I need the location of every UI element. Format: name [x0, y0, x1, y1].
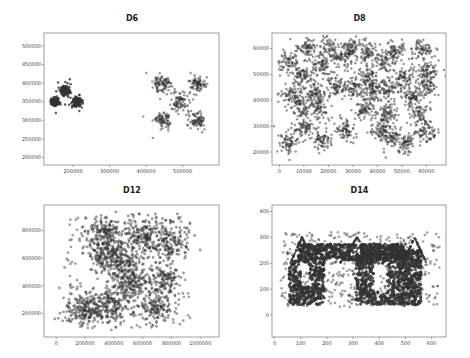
y-tick-label: 200000	[22, 154, 41, 160]
plot-d14: 01002003004005006000100200300400	[259, 205, 446, 346]
y-tick-label: 60000	[253, 45, 269, 51]
scatter-points	[260, 28, 447, 161]
y-tick-label: 20000	[253, 149, 269, 155]
scatter-points	[49, 72, 209, 139]
y-tick-label: 300000	[22, 117, 41, 123]
x-tick-label: 400	[375, 340, 385, 346]
x-tick-label: 40000	[369, 168, 385, 174]
x-tick-label: 300	[348, 340, 358, 346]
x-tick-label: 500	[401, 340, 411, 346]
y-tick-label: 400000	[22, 80, 41, 86]
y-tick-label: 30000	[253, 123, 269, 129]
x-tick-label: 500000	[173, 168, 192, 174]
y-tick-label: 50000	[253, 71, 269, 77]
y-tick-label: 400	[259, 208, 269, 214]
scatter-points	[280, 231, 441, 308]
x-tick-label: 300000	[100, 168, 119, 174]
plot-d8: 0100002000030000400005000060000200003000…	[253, 28, 447, 174]
x-tick-label: 0	[273, 340, 276, 346]
x-tick-label: 600000	[133, 340, 152, 346]
x-tick-label: 30000	[345, 168, 361, 174]
x-tick-label: 1000000	[189, 340, 211, 346]
x-tick-label: 200000	[76, 340, 95, 346]
y-tick-label: 600000	[22, 255, 41, 261]
y-tick-label: 500000	[22, 43, 41, 49]
y-tick-label: 350000	[22, 98, 41, 104]
y-tick-label: 40000	[253, 97, 269, 103]
x-tick-label: 400000	[104, 340, 123, 346]
y-tick-label: 800000	[22, 227, 41, 233]
y-tick-label: 450000	[22, 61, 41, 67]
plot-d12: 0200000400000600000800000100000020000040…	[22, 205, 219, 346]
y-tick-label: 400000	[22, 283, 41, 289]
x-tick-label: 20000	[320, 168, 336, 174]
x-tick-label: 400000	[137, 168, 156, 174]
x-tick-label: 10000	[296, 168, 312, 174]
y-tick-label: 200000	[22, 310, 41, 316]
x-tick-label: 60000	[418, 168, 434, 174]
y-tick-label: 250000	[22, 136, 41, 142]
scatter-points	[53, 211, 201, 345]
x-tick-label: 50000	[394, 168, 410, 174]
y-tick-label: 200	[259, 260, 269, 266]
x-tick-label: 0	[55, 340, 58, 346]
x-tick-label: 100	[296, 340, 306, 346]
y-tick-label: 300	[259, 234, 269, 240]
x-tick-label: 0	[278, 168, 281, 174]
x-tick-label: 600	[427, 340, 437, 346]
y-tick-label: 100	[259, 286, 269, 292]
x-tick-label: 200000	[64, 168, 83, 174]
x-tick-label: 200	[322, 340, 332, 346]
y-tick-label: 0	[266, 312, 269, 318]
x-tick-label: 800000	[162, 340, 181, 346]
plot-d6: 2000003000004000005000002000002500003000…	[22, 33, 219, 174]
scatter-plots-canvas: 2000003000004000005000002000002500003000…	[0, 0, 470, 358]
